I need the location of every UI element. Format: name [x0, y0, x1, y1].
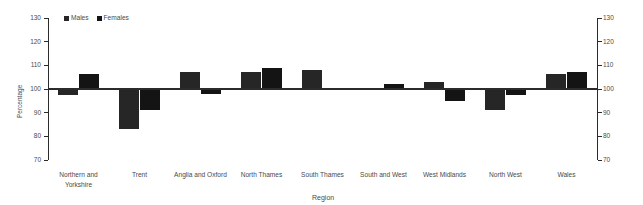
axis-tick [44, 18, 48, 19]
bar-males [241, 72, 261, 89]
axis-tick-label: 100 [23, 85, 41, 92]
axis-tick-label: 80 [23, 132, 41, 139]
legend-swatch-icon [97, 16, 102, 21]
axis-tick-label: 120 [603, 38, 621, 45]
axis-tick-label: 110 [23, 61, 41, 68]
axis-tick-label: 130 [603, 14, 621, 21]
bar-males [58, 89, 78, 95]
axis-tick-label: 90 [23, 109, 41, 116]
axis-tick [44, 136, 48, 137]
bar-chart: MalesFemales Percentage Region 708090100… [0, 0, 643, 205]
axis-tick [44, 65, 48, 66]
axis-tick-label: 100 [603, 85, 621, 92]
axis-tick [598, 136, 602, 137]
bar-males [180, 72, 200, 89]
bar-males [302, 70, 322, 89]
legend-item-females[interactable]: Females [97, 14, 129, 22]
axis-tick [44, 112, 48, 113]
bar-females [140, 89, 160, 110]
bar-females [79, 74, 99, 89]
axis-tick [598, 65, 602, 66]
bar-males [485, 89, 505, 110]
axis-tick [598, 18, 602, 19]
zero-baseline [48, 88, 597, 90]
axis-tick [44, 160, 48, 161]
axis-tick [598, 89, 602, 90]
x-axis-category-label: Wales [519, 170, 615, 180]
axis-tick-label: 120 [23, 38, 41, 45]
axis-tick-label: 130 [23, 14, 41, 21]
legend-label: Males [71, 14, 89, 22]
axis-tick [598, 41, 602, 42]
bar-females [445, 89, 465, 101]
chart-legend: MalesFemales [64, 14, 134, 22]
bar-females [262, 68, 282, 89]
bar-males [546, 74, 566, 89]
legend-label: Females [104, 14, 129, 22]
axis-tick-label: 90 [603, 109, 621, 116]
legend-swatch-icon [64, 16, 69, 21]
bar-females [506, 89, 526, 95]
legend-item-males[interactable]: Males [64, 14, 89, 22]
axis-tick-label: 110 [603, 61, 621, 68]
axis-tick-label: 70 [23, 156, 41, 163]
axis-tick [44, 41, 48, 42]
axis-tick [598, 112, 602, 113]
bar-males [119, 89, 139, 129]
axis-tick [598, 160, 602, 161]
axis-tick-label: 70 [603, 156, 621, 163]
axis-tick-label: 80 [603, 132, 621, 139]
bar-females [567, 72, 587, 89]
y-axis-title: Percentage [16, 85, 23, 118]
x-axis-title: Region [312, 194, 334, 202]
